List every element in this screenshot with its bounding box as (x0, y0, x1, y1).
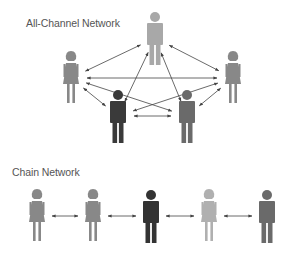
connection-arrow (199, 88, 220, 106)
female-person-icon (225, 51, 241, 103)
network-diagram (0, 0, 290, 254)
male-person-icon (110, 90, 126, 143)
male-person-icon (179, 90, 195, 143)
female-person-icon (29, 189, 45, 241)
male-person-icon (143, 190, 159, 243)
people-layer (29, 12, 275, 243)
female-person-icon (201, 189, 217, 241)
male-person-icon (259, 190, 275, 243)
connection-arrow (161, 53, 181, 101)
connection-arrow (85, 45, 140, 71)
female-person-icon (63, 51, 79, 103)
connection-arrow (86, 83, 172, 111)
female-person-icon (85, 189, 101, 241)
connection-arrow (125, 52, 148, 101)
connection-arrow (169, 45, 219, 70)
male-person-icon (147, 12, 163, 65)
connection-arrow (83, 88, 105, 106)
